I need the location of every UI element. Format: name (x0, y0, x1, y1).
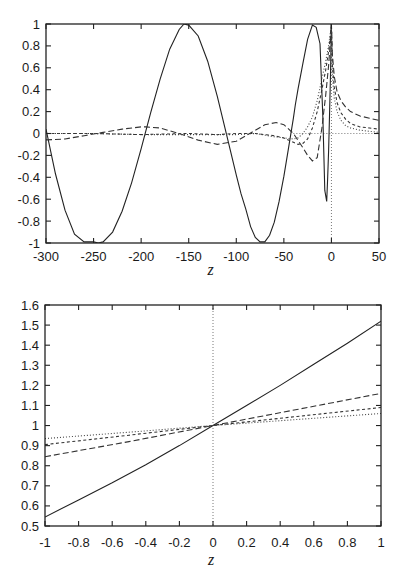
y-tick-label: 1 (32, 418, 39, 433)
y-tick-label: -1 (28, 236, 40, 251)
x-axis-label: z (207, 551, 215, 568)
x-tick-label: 0 (328, 249, 335, 264)
x-tick-label: 0.6 (305, 535, 323, 550)
y-tick-label: 1.3 (21, 358, 39, 373)
x-axis-label: z (206, 261, 214, 278)
y-tick-label: 0.5 (21, 519, 39, 534)
x-tick-label: -0.4 (135, 535, 157, 550)
y-tick-label: -0.4 (18, 170, 40, 185)
y-tick-label: 0.8 (22, 38, 40, 53)
y-tick-label: 1.1 (21, 398, 39, 413)
y-tick-label: 0.6 (22, 60, 40, 75)
x-tick-label: -0.2 (168, 535, 190, 550)
x-tick-label: 1 (377, 535, 384, 550)
y-tick-label: -0.6 (18, 192, 40, 207)
x-tick-label: 0.4 (271, 535, 289, 550)
y-tick-label: -0.8 (18, 214, 40, 229)
x-tick-label: -200 (128, 249, 154, 264)
y-tick-label: 0 (33, 126, 40, 141)
x-tick-label: -300 (33, 249, 59, 264)
y-tick-label: 1.5 (21, 318, 39, 333)
x-tick-label: -250 (81, 249, 107, 264)
x-tick-label: -0.8 (67, 535, 89, 550)
x-tick-label: -50 (274, 249, 293, 264)
y-tick-label: 1.4 (21, 338, 39, 353)
y-tick-label: 0.6 (21, 498, 39, 513)
x-tick-label: 0.2 (238, 535, 256, 550)
y-tick-label: 1 (33, 17, 40, 32)
x-tick-label: -150 (176, 249, 202, 264)
y-tick-label: 1.2 (21, 378, 39, 393)
x-tick-label: -1 (39, 535, 51, 550)
y-tick-label: 0.4 (22, 82, 40, 97)
x-tick-label: 0 (209, 535, 216, 550)
series-solid (46, 0, 332, 243)
bottom-plot: -1-0.8-0.6-0.4-0.200.20.40.60.810.50.60.… (21, 298, 385, 569)
top-plot: -300-250-200-150-100-50050-1-0.8-0.6-0.4… (18, 0, 387, 278)
x-tick-label: -100 (223, 249, 249, 264)
x-tick-label: 0.8 (338, 535, 356, 550)
y-tick-label: -0.2 (18, 148, 40, 163)
y-tick-label: 1.6 (21, 298, 39, 313)
y-tick-label: 0.9 (21, 438, 39, 453)
x-tick-label: 50 (372, 249, 386, 264)
figure: -300-250-200-150-100-50050-1-0.8-0.6-0.4… (0, 0, 402, 581)
y-tick-label: 0.8 (21, 458, 39, 473)
x-tick-label: -0.6 (101, 535, 123, 550)
y-tick-label: 0.2 (22, 104, 40, 119)
y-tick-label: 0.7 (21, 478, 39, 493)
